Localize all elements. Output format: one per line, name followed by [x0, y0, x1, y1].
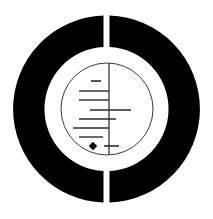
figure-canvas: [0, 0, 213, 219]
annulus-schematic-figure: [0, 0, 213, 219]
inner-circle-outline: [61, 63, 153, 155]
